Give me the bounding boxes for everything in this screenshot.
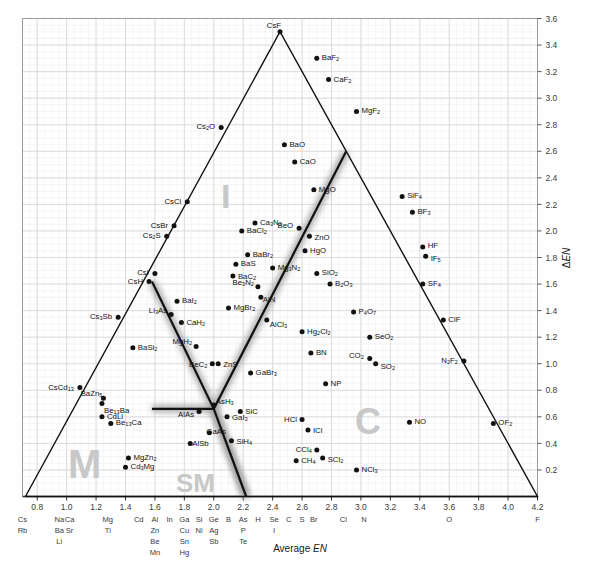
data-point-marker xyxy=(278,29,283,34)
x-tick-label: 3.2 xyxy=(384,502,396,512)
x-axis-element-symbol: Ag xyxy=(209,526,218,535)
x-axis-element-symbol: Si xyxy=(196,515,203,524)
data-point-marker xyxy=(400,194,405,199)
x-tick-label: 1.6 xyxy=(149,502,161,512)
data-point-label: BeO xyxy=(278,221,294,230)
data-point-marker xyxy=(116,315,121,320)
data-point-label: CaO xyxy=(300,157,316,166)
data-point-marker xyxy=(229,438,234,443)
data-point-label: SiC xyxy=(245,407,258,416)
data-point-label: Cs2S xyxy=(143,231,161,240)
data-point-label: HgO xyxy=(310,246,326,255)
x-axis-element-symbol: S xyxy=(300,515,305,524)
x-tick-label: 2.2 xyxy=(237,502,249,512)
data-point-marker xyxy=(314,448,319,453)
x-axis-title: Average EN xyxy=(273,543,328,554)
x-axis-element-symbol: In xyxy=(166,515,172,524)
x-axis-element-symbol: N xyxy=(361,515,366,524)
y-tick-label: 3.6 xyxy=(546,14,558,24)
x-axis-element-symbol: B xyxy=(226,515,231,524)
data-point-marker xyxy=(441,317,446,322)
data-point-label: GaAs xyxy=(206,427,226,436)
data-point-marker xyxy=(179,320,184,325)
y-tick-label: 2.0 xyxy=(546,226,558,236)
x-axis-element-symbol: H xyxy=(255,515,260,524)
data-point-label: HCl xyxy=(284,415,297,424)
x-axis-element-symbol: Hg xyxy=(179,548,189,557)
x-axis-element-symbol: Cs xyxy=(18,515,27,524)
data-point-marker xyxy=(147,279,152,284)
x-axis-element-symbol: Se xyxy=(269,515,278,524)
data-point-marker xyxy=(420,282,425,287)
y-tick-label: 3.0 xyxy=(546,93,558,103)
zone-label-covalent: C xyxy=(355,401,381,442)
x-axis-element-symbol: Rb xyxy=(18,526,28,535)
x-tick-label: 1.0 xyxy=(61,502,73,512)
y-tick-label: 1.6 xyxy=(546,279,558,289)
y-tick-label: 0.2 xyxy=(546,465,558,475)
x-tick-label: 4.2 xyxy=(532,502,544,512)
zone-label-semimetallic: SM xyxy=(176,468,215,498)
x-axis-element-symbol: Sr xyxy=(66,526,74,535)
y-tick-label: 2.8 xyxy=(546,120,558,130)
x-tick-label: 1.2 xyxy=(90,502,102,512)
x-axis-element-symbol: Ba xyxy=(55,526,65,535)
data-point-marker xyxy=(255,284,260,289)
data-point-marker xyxy=(307,234,312,239)
data-point-marker xyxy=(292,159,297,164)
y-tick-label: 0.6 xyxy=(546,412,558,422)
x-axis-element-symbol: Ni xyxy=(195,526,202,535)
x-axis-element-symbol: Sn xyxy=(180,537,189,546)
x-axis-element-symbol: Cd xyxy=(134,515,144,524)
x-axis-element-symbol: Be xyxy=(150,537,159,546)
x-axis-element-symbol: Ga xyxy=(179,515,190,524)
x-axis-element-symbol: P xyxy=(241,526,246,535)
data-point-marker xyxy=(326,77,331,82)
data-point-marker xyxy=(264,317,269,322)
x-tick-label: 4.0 xyxy=(502,502,514,512)
data-point-marker xyxy=(354,109,359,114)
data-point-marker xyxy=(248,371,253,376)
y-tick-label: 2.2 xyxy=(546,200,558,210)
data-point-marker xyxy=(282,142,287,147)
data-point-label: MgZn2 xyxy=(133,453,156,462)
y-tick-label: 1.0 xyxy=(546,359,558,369)
data-point-marker xyxy=(300,329,305,334)
data-point-label: MgO xyxy=(319,185,336,194)
x-axis-element-symbol: Al xyxy=(152,515,159,524)
x-tick-label: 0.8 xyxy=(31,502,43,512)
x-axis-element-symbol: Mn xyxy=(150,548,161,557)
x-axis-element-symbol: O xyxy=(446,515,452,524)
data-point-label: HF xyxy=(428,241,439,250)
y-axis-title: ΔEN xyxy=(561,247,572,268)
data-point-marker xyxy=(108,421,113,426)
y-tick-label: 2.4 xyxy=(546,173,558,183)
x-axis-element-symbol: Zn xyxy=(150,526,159,535)
data-point-marker xyxy=(294,458,299,463)
x-tick-label: 2.0 xyxy=(208,502,220,512)
x-axis-element-symbol: Li xyxy=(56,537,62,546)
y-tick-label: 1.2 xyxy=(546,332,558,342)
data-point-label: CsBr xyxy=(151,221,169,230)
data-point-label: ZnO xyxy=(314,233,329,242)
x-tick-label: 2.8 xyxy=(326,502,338,512)
data-point-marker xyxy=(373,361,378,366)
data-point-label: Li3As xyxy=(149,306,167,315)
x-axis-element-symbol: Cu xyxy=(179,526,189,535)
x-axis-element-symbol: C xyxy=(286,515,292,524)
data-point-marker xyxy=(172,223,177,228)
data-point-marker xyxy=(225,414,230,419)
data-point-marker xyxy=(305,428,310,433)
data-point-label: CsH xyxy=(128,277,143,286)
data-point-marker xyxy=(233,262,238,267)
data-point-marker xyxy=(314,56,319,61)
data-point-marker xyxy=(367,335,372,340)
y-tick-label: 0.8 xyxy=(546,385,558,395)
x-axis-element-symbol: Cl xyxy=(340,515,347,524)
data-point-label: NO xyxy=(414,417,426,426)
data-point-label: GaBr3 xyxy=(256,368,277,377)
x-axis-element-symbol: Mg xyxy=(103,515,114,524)
data-point-marker xyxy=(308,351,313,356)
data-point-marker xyxy=(328,282,333,287)
x-tick-label: 2.6 xyxy=(296,502,308,512)
